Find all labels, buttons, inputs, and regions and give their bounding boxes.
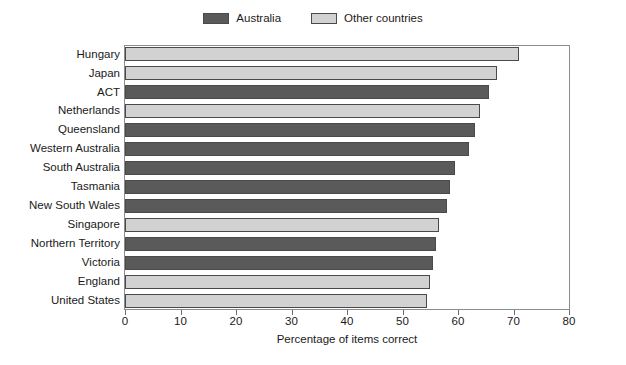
bar-container <box>125 294 427 308</box>
bar-other-countries <box>125 104 480 118</box>
bar-rows: HungaryJapanACTNetherlandsQueenslandWest… <box>0 45 626 310</box>
bar-container <box>125 199 447 213</box>
bar-row: United States <box>0 291 626 310</box>
category-label: Queensland <box>0 124 120 136</box>
category-label: Hungary <box>0 49 120 61</box>
bar-container <box>125 123 475 137</box>
category-label: Netherlands <box>0 105 120 117</box>
bar-other-countries <box>125 218 439 232</box>
bar-row: South Australia <box>0 159 626 178</box>
bar-container <box>125 180 450 194</box>
bar-row: Western Australia <box>0 140 626 159</box>
bar-row: Northern Territory <box>0 234 626 253</box>
x-tick-label: 10 <box>174 316 187 328</box>
bar-other-countries <box>125 66 497 80</box>
bar-other-countries <box>125 275 430 289</box>
bar-container <box>125 142 469 156</box>
category-label: ACT <box>0 87 120 99</box>
category-label: Singapore <box>0 219 120 231</box>
x-tick-label: 70 <box>507 316 520 328</box>
x-tick-label: 80 <box>563 316 576 328</box>
bar-australia <box>125 237 436 251</box>
chart-legend: AustraliaOther countries <box>0 13 626 25</box>
bar-row: Netherlands <box>0 102 626 121</box>
bar-container <box>125 66 497 80</box>
bar-row: Japan <box>0 64 626 83</box>
bar-australia <box>125 180 450 194</box>
bar-container <box>125 85 489 99</box>
category-label: Tasmania <box>0 181 120 193</box>
bar-other-countries <box>125 294 427 308</box>
x-axis-title: Percentage of items correct <box>124 333 570 345</box>
bar-container <box>125 104 480 118</box>
x-tick-label: 0 <box>122 316 128 328</box>
category-label: England <box>0 276 120 288</box>
bar-other-countries <box>125 47 519 61</box>
bar-row: Queensland <box>0 121 626 140</box>
x-axis-tick-labels: 01020304050607080 <box>0 316 626 332</box>
category-label: Northern Territory <box>0 238 120 250</box>
bar-row: Singapore <box>0 215 626 234</box>
bar-row: England <box>0 272 626 291</box>
legend-item-label: Other countries <box>344 13 423 25</box>
bar-row: Tasmania <box>0 178 626 197</box>
bar-container <box>125 161 455 175</box>
bar-australia <box>125 142 469 156</box>
bar-container <box>125 218 439 232</box>
category-label: Japan <box>0 68 120 80</box>
bar-container <box>125 237 436 251</box>
category-label: Victoria <box>0 257 120 269</box>
x-tick-label: 20 <box>230 316 243 328</box>
category-label: New South Wales <box>0 200 120 212</box>
bar-row: Victoria <box>0 253 626 272</box>
bar-container <box>125 47 519 61</box>
bar-row: Hungary <box>0 45 626 64</box>
bar-container <box>125 256 433 270</box>
x-tick-label: 30 <box>285 316 298 328</box>
bar-container <box>125 275 430 289</box>
bar-row: ACT <box>0 83 626 102</box>
legend-item-2: Other countries <box>311 13 423 25</box>
bar-australia <box>125 199 447 213</box>
bar-australia <box>125 123 475 137</box>
bar-row: New South Wales <box>0 196 626 215</box>
legend-swatch-icon <box>203 13 229 24</box>
x-tick-label: 60 <box>452 316 465 328</box>
bar-chart: AustraliaOther countries HungaryJapanACT… <box>0 0 626 365</box>
bar-australia <box>125 256 433 270</box>
legend-item-label: Australia <box>236 13 281 25</box>
x-tick-label: 50 <box>396 316 409 328</box>
legend-swatch-icon <box>311 13 337 24</box>
category-label: United States <box>0 295 120 307</box>
category-label: Western Australia <box>0 143 120 155</box>
category-label: South Australia <box>0 162 120 174</box>
x-tick-label: 40 <box>341 316 354 328</box>
legend-item-1: Australia <box>203 13 281 25</box>
bar-australia <box>125 161 455 175</box>
bar-australia <box>125 85 489 99</box>
